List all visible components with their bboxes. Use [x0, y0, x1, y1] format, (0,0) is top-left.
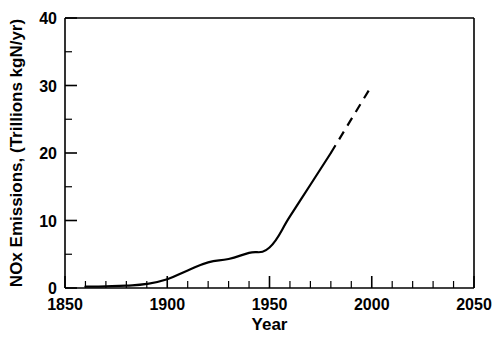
- x-tick-label-1900: 1900: [149, 296, 185, 313]
- y-tick-label-20: 20: [39, 145, 57, 162]
- x-tick-label-2000: 2000: [354, 296, 390, 313]
- y-tick-label-40: 40: [39, 10, 57, 27]
- chart-figure: 0 10 20 30 40 1850 1900 1950 2000 2050 Y…: [0, 0, 503, 344]
- x-axis-title: Year: [252, 315, 288, 334]
- y-tick-label-0: 0: [48, 280, 57, 297]
- nox-emissions-line-chart: 0 10 20 30 40 1850 1900 1950 2000 2050 Y…: [0, 0, 503, 344]
- x-tick-label-1850: 1850: [47, 296, 83, 313]
- chart-background: [0, 0, 503, 344]
- y-tick-label-10: 10: [39, 213, 57, 230]
- y-axis-title: NOx Emissions, (Trillions kgN/yr): [7, 19, 26, 287]
- x-tick-label-1950: 1950: [252, 296, 288, 313]
- y-tick-label-30: 30: [39, 78, 57, 95]
- x-tick-label-2050: 2050: [456, 296, 492, 313]
